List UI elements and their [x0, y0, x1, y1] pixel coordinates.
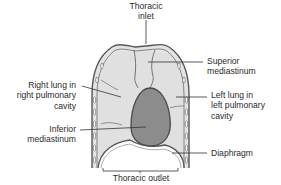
label-superior-mediastinum: Superior mediastinum [207, 56, 256, 77]
label-thoracic-outlet: Thoracic outlet [105, 173, 177, 183]
label-line: Diaphragm [211, 148, 253, 158]
label-inferior-mediastinum: Inferior mediastinum [27, 124, 76, 145]
label-line: Inferior [27, 124, 76, 134]
label-thoracic-inlet: Thoracic inlet [126, 1, 166, 22]
label-line: Superior [207, 56, 256, 66]
label-diaphragm: Diaphragm [211, 148, 253, 158]
label-line: inlet [126, 11, 166, 21]
label-line: Thoracic [126, 1, 166, 11]
label-line: left pulmonary [211, 100, 265, 110]
label-line: Right lung in [17, 80, 76, 90]
label-right-lung: Right lung in right pulmonary cavity [17, 80, 76, 111]
label-line: cavity [211, 111, 265, 121]
label-line: Thoracic outlet [105, 173, 177, 183]
label-left-lung: Left lung in left pulmonary cavity [211, 90, 265, 121]
label-line: mediastinum [27, 134, 76, 144]
label-line: Left lung in [211, 90, 265, 100]
label-line: mediastinum [207, 66, 256, 76]
label-line: right pulmonary [17, 90, 76, 100]
label-line: cavity [17, 101, 76, 111]
